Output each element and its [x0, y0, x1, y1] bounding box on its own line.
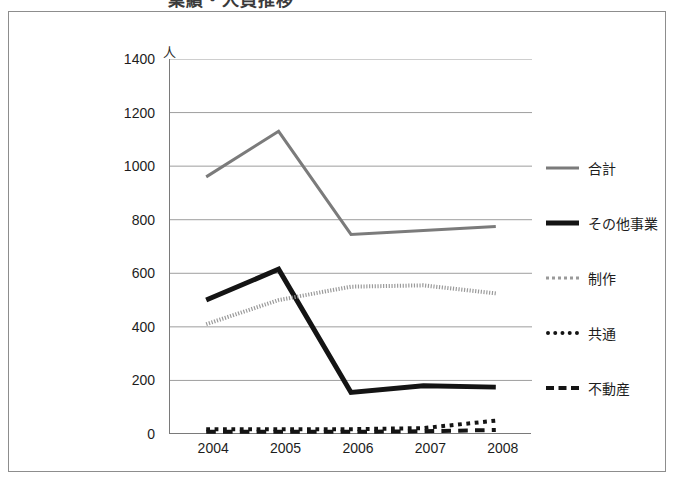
- legend-item[interactable]: 共通: [546, 305, 666, 360]
- legend-item[interactable]: その他事業: [546, 195, 666, 250]
- legend-item[interactable]: 合計: [546, 140, 666, 195]
- chart-series-line: [206, 269, 496, 392]
- legend-swatch-icon: [546, 217, 579, 229]
- y-axis-tick-label: 200: [109, 372, 155, 388]
- legend-item[interactable]: 制作: [546, 250, 666, 305]
- chart-lines: [170, 59, 532, 434]
- y-axis-tick-label: 800: [109, 212, 155, 228]
- chart-series-line: [206, 131, 496, 234]
- legend-item[interactable]: 不動産: [546, 360, 666, 415]
- chart-series-line: [206, 421, 496, 430]
- legend-swatch-icon: [546, 162, 579, 174]
- chart-legend: 合計その他事業制作共通不動産: [546, 140, 666, 415]
- y-axis-labels: 1400120010008006004002000: [107, 59, 155, 434]
- legend-swatch-icon: [546, 272, 579, 284]
- plot-area: [169, 59, 531, 434]
- x-axis-tick-label: 2004: [198, 440, 229, 456]
- x-axis-labels: 20042005200620072008: [169, 440, 531, 464]
- legend-swatch-icon: [546, 382, 579, 394]
- legend-item-label: 制作: [588, 268, 616, 288]
- plot-wrapper: [161, 59, 531, 444]
- x-axis-tick-label: 2007: [415, 440, 446, 456]
- legend-item-label: その他事業: [588, 213, 658, 233]
- legend-item-label: 共通: [588, 323, 616, 343]
- x-axis-tick-label: 2008: [487, 440, 518, 456]
- y-axis-tick-label: 400: [109, 319, 155, 335]
- page-title: 業績・人員推移: [168, 0, 294, 9]
- x-axis-tick-label: 2005: [270, 440, 301, 456]
- y-axis-tick-label: 1400: [109, 51, 155, 67]
- y-axis-tick-label: 1000: [109, 158, 155, 174]
- y-axis-tick-label: 1200: [109, 105, 155, 121]
- chart-series-line: [206, 285, 496, 324]
- legend-swatch-icon: [546, 327, 579, 339]
- x-axis-tick-label: 2006: [342, 440, 373, 456]
- legend-item-label: 不動産: [588, 378, 630, 398]
- y-axis-tick-label: 600: [109, 265, 155, 281]
- y-axis-tick-label: 0: [109, 426, 155, 442]
- legend-item-label: 合計: [588, 158, 616, 178]
- chart-frame: 人 1400120010008006004002000 200420052006…: [8, 11, 666, 472]
- page-title-sliver: 業績・人員推移: [0, 0, 677, 9]
